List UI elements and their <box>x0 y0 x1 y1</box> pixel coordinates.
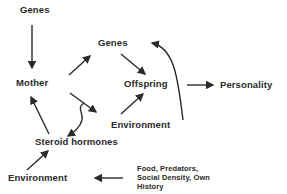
arrow-steroid-to-mother <box>31 97 49 134</box>
node-offspring: Offspring <box>124 79 168 89</box>
node-genes-mid: Genes <box>98 38 128 48</box>
node-personality: Personality <box>220 80 272 90</box>
node-food-predators: Food, Predators, Social Density, Own His… <box>137 164 277 191</box>
node-steroid-hormones: Steroid hormones <box>35 137 118 147</box>
arrow-mother-to-genes <box>69 56 90 75</box>
arrow-mother-to-environment <box>70 93 96 112</box>
arrow-environment-to-offspring <box>121 94 143 114</box>
arrow-genes-to-offspring <box>121 54 145 74</box>
node-environment-bottom: Environment <box>8 173 67 183</box>
food-line-3: History <box>137 182 277 191</box>
arrow-environment-to-steroid <box>27 151 48 170</box>
food-line-1: Food, Predators, <box>137 164 277 173</box>
food-line-2: Social Density, Own <box>137 173 277 182</box>
node-genes-top: Genes <box>20 5 50 15</box>
node-mother: Mother <box>16 78 48 88</box>
node-environment-mid: Environment <box>111 120 170 130</box>
wavy-arrow-to-steroid <box>68 103 84 136</box>
